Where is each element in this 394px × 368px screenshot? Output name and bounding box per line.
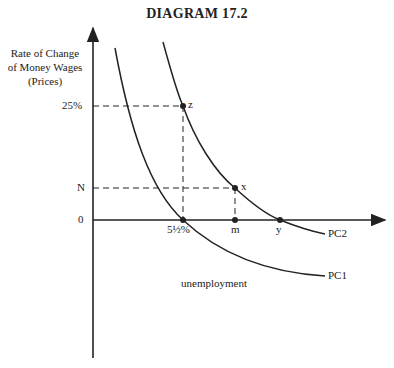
y-tick-0: 0 — [78, 213, 84, 225]
pc2-curve — [163, 42, 325, 234]
x-tick-y: y — [276, 223, 282, 235]
y-tick-25: 25% — [62, 99, 82, 111]
x-tick-natural: 5½% — [167, 223, 190, 235]
y-tick-n: N — [77, 181, 85, 193]
x-tick-m: m — [231, 223, 240, 235]
pc1-label: PC1 — [328, 269, 347, 281]
pc1-curve — [115, 48, 325, 276]
pc2-label: PC2 — [328, 227, 347, 239]
point-x-label: x — [241, 180, 247, 192]
phillips-curve-plot — [0, 0, 394, 368]
point-z-label: z — [188, 98, 193, 110]
x-axis-label: unemployment — [181, 277, 247, 289]
